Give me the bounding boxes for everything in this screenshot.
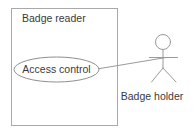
use-case-label-access-control: Access control [22, 63, 90, 75]
association-line-access-control-badge-holder[interactable] [97, 58, 166, 70]
actor-head-icon [156, 35, 171, 50]
actor-label-badge-holder: Badge holder [121, 90, 184, 102]
actor-stick-figure-badge-holder[interactable] [150, 35, 178, 83]
actor-left-leg-line [152, 68, 164, 82]
use-case-diagram-canvas: Badge reader Access control Badge holder [0, 0, 194, 133]
system-boundary-label: Badge reader [22, 12, 86, 24]
actor-right-leg-line [163, 68, 176, 82]
